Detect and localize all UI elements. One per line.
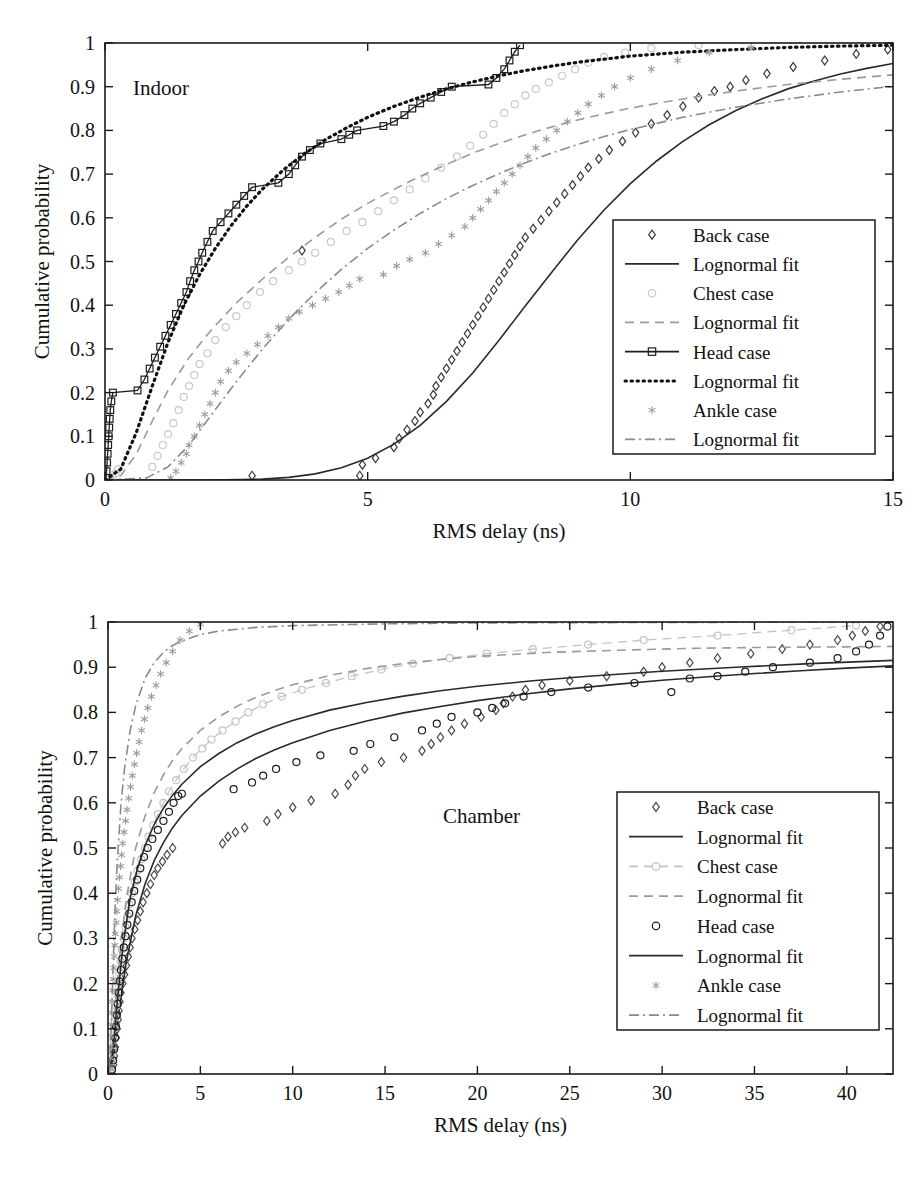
data-marker bbox=[475, 312, 481, 321]
data-marker bbox=[335, 288, 342, 296]
y-tick-label: 0.3 bbox=[73, 927, 98, 949]
data-marker bbox=[877, 632, 884, 639]
panel-annotation: Chamber bbox=[443, 804, 520, 828]
data-marker bbox=[346, 282, 353, 290]
x-tick-label: 15 bbox=[883, 488, 903, 510]
data-marker bbox=[244, 349, 251, 357]
data-marker bbox=[606, 146, 612, 155]
data-marker bbox=[243, 302, 250, 309]
data-marker bbox=[352, 771, 358, 780]
panel-annotation: Indoor bbox=[133, 76, 189, 100]
data-marker bbox=[249, 779, 256, 786]
y-tick-label: 0.4 bbox=[73, 882, 98, 904]
data-marker bbox=[225, 367, 232, 375]
legend-label: Back case bbox=[697, 797, 773, 818]
data-marker bbox=[170, 799, 177, 806]
data-marker bbox=[322, 295, 329, 303]
data-marker bbox=[461, 719, 467, 728]
data-marker bbox=[357, 471, 363, 480]
data-marker bbox=[275, 810, 281, 819]
data-marker bbox=[569, 181, 575, 190]
legend: Back caseLognormal fitChest caseLognorma… bbox=[617, 792, 879, 1030]
data-marker bbox=[596, 154, 602, 163]
data-marker bbox=[577, 172, 583, 181]
legend-label: Head case bbox=[697, 916, 775, 937]
y-tick-label: 0.5 bbox=[73, 837, 98, 859]
indoor-chart-svg: 05101500.10.20.30.40.50.60.70.80.91RMS d… bbox=[0, 0, 918, 570]
data-marker bbox=[545, 79, 552, 86]
data-marker bbox=[522, 233, 528, 242]
data-marker bbox=[362, 765, 368, 774]
y-tick-label: 0.8 bbox=[73, 701, 98, 723]
x-tick-label: 40 bbox=[837, 1082, 857, 1104]
data-marker bbox=[260, 701, 267, 708]
data-marker bbox=[285, 267, 292, 274]
data-marker bbox=[779, 645, 785, 654]
y-tick-label: 1 bbox=[85, 32, 95, 54]
data-marker bbox=[538, 216, 544, 225]
data-marker bbox=[160, 817, 167, 824]
x-tick-label: 10 bbox=[283, 1082, 303, 1104]
data-marker bbox=[572, 66, 579, 73]
data-marker bbox=[217, 378, 224, 386]
data-marker bbox=[553, 127, 560, 135]
legend-label: Ankle case bbox=[693, 400, 777, 421]
panel-indoor: 05101500.10.20.30.40.50.60.70.80.91RMS d… bbox=[0, 0, 918, 570]
legend-label: Ankle case bbox=[697, 975, 781, 996]
data-marker bbox=[380, 271, 387, 279]
legend-label: Lognormal fit bbox=[693, 371, 800, 392]
data-marker bbox=[543, 135, 550, 143]
data-marker bbox=[138, 727, 145, 735]
x-axis-label: RMS delay (ns) bbox=[434, 1113, 567, 1137]
data-marker bbox=[350, 747, 357, 754]
data-marker bbox=[175, 407, 182, 414]
x-tick-label: 0 bbox=[103, 1082, 113, 1104]
legend-label: Lognormal fit bbox=[697, 1005, 804, 1026]
data-marker bbox=[204, 350, 211, 357]
data-marker bbox=[598, 92, 605, 100]
data-marker bbox=[611, 83, 618, 91]
legend-label: Lognormal fit bbox=[697, 946, 804, 967]
x-tick-label: 15 bbox=[375, 1082, 395, 1104]
data-marker bbox=[164, 850, 170, 859]
data-marker bbox=[293, 759, 300, 766]
data-marker bbox=[186, 441, 193, 449]
data-marker bbox=[155, 864, 161, 873]
data-marker bbox=[834, 655, 841, 662]
data-marker bbox=[256, 289, 263, 296]
data-marker bbox=[375, 208, 382, 215]
data-marker bbox=[619, 137, 625, 146]
data-marker bbox=[159, 857, 165, 866]
series-head-case bbox=[103, 42, 524, 481]
data-marker bbox=[232, 828, 238, 837]
data-marker bbox=[159, 442, 166, 449]
data-marker bbox=[849, 631, 855, 640]
data-marker bbox=[525, 153, 532, 161]
data-marker bbox=[453, 153, 460, 160]
y-axis-label: Cumulative probability bbox=[30, 163, 54, 359]
data-marker bbox=[147, 880, 153, 889]
data-marker bbox=[438, 373, 444, 382]
data-marker bbox=[496, 277, 502, 286]
legend: Back caseLognormal fitChest caseLognorma… bbox=[613, 220, 875, 454]
data-marker bbox=[501, 268, 507, 277]
data-marker bbox=[509, 170, 516, 178]
data-marker bbox=[154, 452, 161, 459]
data-marker bbox=[151, 871, 157, 880]
data-marker bbox=[270, 278, 277, 285]
data-marker bbox=[118, 851, 125, 859]
data-marker bbox=[124, 921, 131, 928]
data-marker bbox=[133, 749, 140, 757]
y-axis-label: Cumulative probability bbox=[33, 750, 57, 946]
data-marker bbox=[199, 745, 206, 752]
legend-label: Chest case bbox=[697, 856, 778, 877]
data-marker bbox=[207, 400, 214, 408]
data-marker bbox=[356, 275, 363, 283]
data-marker bbox=[186, 383, 193, 390]
data-marker bbox=[443, 364, 449, 373]
data-marker bbox=[391, 734, 398, 741]
y-tick-label: 0.1 bbox=[73, 1018, 98, 1040]
data-marker bbox=[286, 315, 293, 323]
data-marker bbox=[522, 92, 529, 99]
data-marker bbox=[822, 56, 828, 65]
